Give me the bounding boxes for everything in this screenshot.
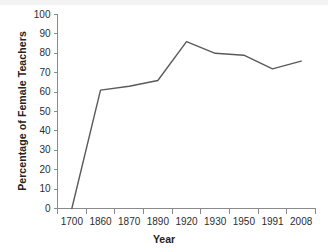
line-chart-figure: Percentage of Female Teachers 0102030405…: [0, 0, 328, 252]
x-axis-ticks: [58, 209, 316, 214]
y-axis-ticks: [54, 15, 58, 209]
x-axis-title: Year: [0, 233, 328, 245]
data-series-line: [72, 42, 301, 209]
plot-area: [0, 0, 328, 252]
